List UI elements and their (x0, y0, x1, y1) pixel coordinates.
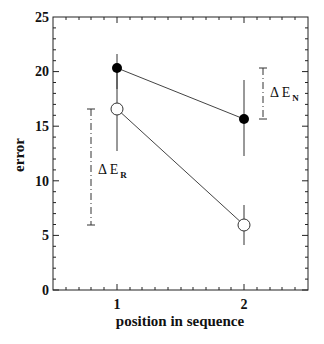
delta-en-bracket (259, 68, 267, 119)
error-bars-open (117, 72, 244, 245)
line-filled-series (117, 68, 244, 119)
delta-en-label: Δ EN (270, 85, 299, 103)
marker-open-x2 (238, 219, 250, 231)
x-axis-title: position in sequence (116, 313, 245, 329)
y-tick-5: 5 (42, 228, 49, 243)
delta-er-label: Δ ER (98, 162, 127, 180)
y-tick-0: 0 (42, 283, 49, 298)
x-tick-1: 1 (114, 297, 121, 312)
chart: 0 5 10 15 20 25 1 2 position in sequence… (0, 0, 324, 344)
y-tick-20: 20 (35, 64, 49, 79)
delta-er-bracket (87, 109, 95, 225)
marker-filled-x2 (239, 114, 249, 124)
error-bars-filled (117, 54, 244, 156)
y-tick-10: 10 (35, 174, 49, 189)
marker-filled-x1 (112, 63, 122, 73)
line-open-series (117, 109, 244, 225)
marker-open-x1 (111, 103, 123, 115)
x-tick-2: 2 (241, 297, 248, 312)
y-tick-25: 25 (35, 10, 49, 25)
y-tick-15: 15 (35, 119, 49, 134)
y-axis-title: error (11, 138, 27, 172)
x-ticks (66, 17, 295, 290)
y-ticks (53, 28, 308, 290)
